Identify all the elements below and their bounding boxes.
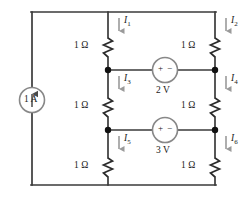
resistor-label-middle-bottom: 1 Ω	[74, 161, 88, 171]
node-dot-middle-upper	[105, 67, 111, 73]
resistor-label-right-center: 1 Ω	[181, 101, 195, 111]
resistor-right-bottom	[211, 158, 220, 177]
node-dot-middle-lower	[105, 127, 111, 133]
current-label-i6-sub: 6	[234, 138, 238, 146]
current-label-i2: I2	[231, 16, 238, 28]
current-label-i3: I3	[124, 74, 131, 86]
current-label-i4: I4	[231, 74, 238, 86]
voltage-source-2v-symbol	[153, 58, 178, 83]
voltage-source-2v-label: 2 V	[156, 86, 170, 96]
resistor-label-right-bottom: 1 Ω	[181, 161, 195, 171]
current-label-i1: I1	[124, 16, 131, 28]
voltage-source-3v-minus-sign: −	[167, 124, 172, 133]
resistor-middle-bottom	[104, 158, 113, 177]
voltage-source-2v-plus-sign: +	[158, 64, 163, 73]
resistor-middle-center	[104, 98, 113, 117]
node-dot-right-lower	[212, 127, 218, 133]
current-label-i6: I6	[231, 134, 238, 146]
current-label-i5: I5	[124, 134, 131, 146]
current-label-i2-sub: 2	[234, 20, 238, 28]
current-label-i1-sub: 1	[127, 20, 131, 28]
voltage-source-3v-label: 3 V	[156, 146, 170, 156]
circuit-diagram: 1 A + − 2 V + − 3 V 1 Ω 1 Ω 1 Ω 1 Ω 1 Ω …	[0, 0, 248, 202]
current-label-i4-sub: 4	[234, 78, 238, 86]
resistor-label-right-top: 1 Ω	[181, 41, 195, 51]
current-label-i5-sub: 5	[127, 138, 131, 146]
voltage-source-2v-minus-sign: −	[167, 64, 172, 73]
resistor-right-top	[211, 38, 220, 57]
resistor-label-middle-top: 1 Ω	[74, 41, 88, 51]
current-label-i3-sub: 3	[127, 78, 131, 86]
resistor-label-middle-center: 1 Ω	[74, 101, 88, 111]
voltage-source-3v-circle	[153, 118, 178, 143]
voltage-source-3v-plus-sign: +	[158, 124, 163, 133]
voltage-source-2v-circle	[153, 58, 178, 83]
current-source-label: 1 A	[24, 95, 37, 105]
node-dot-right-upper	[212, 67, 218, 73]
voltage-source-3v-symbol	[153, 118, 178, 143]
resistor-right-center	[211, 98, 220, 117]
resistor-middle-top	[104, 38, 113, 57]
